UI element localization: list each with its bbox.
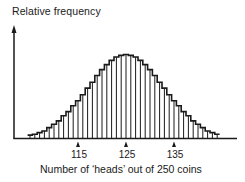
histogram-chart: Relative frequency 115 125 135 Number of… [0,0,245,182]
histogram-bars [30,55,217,139]
y-axis-arrow-icon [12,25,17,33]
tick-marker-135-icon [172,142,176,148]
curve-outline [28,55,220,136]
x-tick-label-135: 135 [167,149,184,160]
x-tick-label-115: 115 [71,149,87,160]
x-tick-label-125: 125 [119,149,136,160]
y-axis-label: Relative frequency [12,5,101,17]
x-axis-label: Number of ‘heads’ out of 250 coins [40,163,202,175]
tick-marker-125-icon [124,142,128,148]
tick-marker-115-icon [76,142,80,148]
